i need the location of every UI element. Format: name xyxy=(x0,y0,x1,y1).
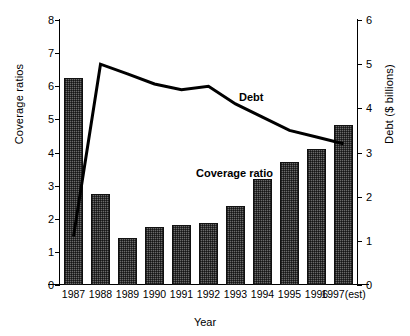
y-axis-left-tick-8: 8 xyxy=(40,15,54,25)
bar-1990 xyxy=(145,227,165,285)
y-axis-left-tick-1: 1 xyxy=(40,247,54,257)
bar-1993 xyxy=(226,206,246,286)
x-axis-tick-1997(est): 1997(est) xyxy=(316,288,372,300)
y-axis-left-tick-6: 6 xyxy=(40,81,54,91)
y-axis-left-tick-7: 7 xyxy=(40,48,54,58)
x-axis-title: Year xyxy=(0,316,410,328)
y-axis-left-tick-3: 3 xyxy=(40,181,54,191)
y-axis-left-tick-mark xyxy=(55,285,60,286)
y-axis-left-tick-2: 2 xyxy=(40,214,54,224)
y-axis-right-tick-1: 1 xyxy=(366,236,380,246)
bar-1987 xyxy=(64,78,84,285)
bar-1997(est) xyxy=(334,125,354,285)
annotation-coverage-ratio: Coverage ratio xyxy=(196,167,273,179)
chart-container: 012345678 0123456 1987198819891990199119… xyxy=(0,0,410,336)
bar-1995 xyxy=(280,162,300,285)
bar-1996 xyxy=(307,149,327,285)
y-axis-right-tick-mark xyxy=(357,153,362,154)
bar-1989 xyxy=(118,238,138,285)
plot-area xyxy=(60,20,357,285)
y-axis-right-title: Debt ($ billions) xyxy=(383,39,395,169)
bar-1994 xyxy=(253,179,273,285)
y-axis-right-tick-6: 6 xyxy=(366,15,380,25)
annotation-debt: Debt xyxy=(239,91,263,103)
y-axis-right-tick-mark xyxy=(357,285,362,286)
y-axis-left-tick-4: 4 xyxy=(40,148,54,158)
bar-1988 xyxy=(91,194,111,285)
y-axis-right-tick-3: 3 xyxy=(366,148,380,158)
y-axis-right-tick-mark xyxy=(357,108,362,109)
y-axis-right-tick-2: 2 xyxy=(366,192,380,202)
y-axis-right-tick-mark xyxy=(357,64,362,65)
y-axis-left-title: Coverage ratios xyxy=(13,39,25,169)
bar-1992 xyxy=(199,223,219,285)
y-axis-right-tick-5: 5 xyxy=(366,59,380,69)
bar-1991 xyxy=(172,225,192,285)
y-axis-left-tick-5: 5 xyxy=(40,114,54,124)
y-axis-right-tick-4: 4 xyxy=(366,103,380,113)
y-axis-right-tick-mark xyxy=(357,20,362,21)
y-axis-right-tick-mark xyxy=(357,197,362,198)
y-axis-right-tick-mark xyxy=(357,241,362,242)
